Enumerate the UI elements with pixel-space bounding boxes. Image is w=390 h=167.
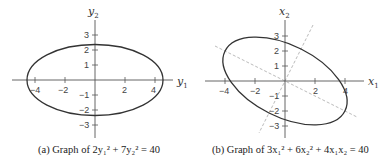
- x-tick-label: −4: [219, 86, 229, 96]
- caption-a-equation: 2y₁² + 7y₂² = 40: [93, 144, 160, 155]
- y-tick-label: 1: [274, 61, 279, 71]
- caption-a-prefix: (a) Graph of: [38, 144, 93, 155]
- major-principal-axis: [215, 46, 358, 118]
- x-tick-label: 2: [313, 86, 318, 96]
- y-tick-label: −2: [79, 105, 89, 115]
- y-tick-label: −3: [79, 120, 89, 130]
- caption-b-equation: 3x₁² + 6x₂² + 4x₁x₂ = 40: [267, 144, 369, 155]
- y-axis-label: y2: [87, 5, 99, 20]
- y-tick-label: 2: [84, 45, 89, 55]
- caption-a: (a) Graph of 2y₁² + 7y₂² = 40: [38, 144, 160, 155]
- minor-principal-axis: [259, 25, 313, 133]
- figure-canvas: −4 −2 2 4 3 2 1 −1 −2 −3 y1 y2: [0, 0, 390, 167]
- x-tick-label: 4: [151, 85, 156, 95]
- y-tick-label: 2: [274, 46, 279, 56]
- x-tick-label: −2: [58, 85, 68, 95]
- y-tick-label: −1: [269, 91, 279, 101]
- caption-b: (b) Graph of 3x₁² + 6x₂² + 4x₁x₂ = 40: [212, 144, 369, 155]
- y-tick-label: 1: [84, 60, 89, 70]
- y-tick-label: −3: [269, 121, 279, 131]
- x-axis-label: x1: [368, 75, 379, 90]
- caption-b-prefix: (b) Graph of: [212, 144, 267, 155]
- panel-b: −4 −2 2 4 3 2 1 −1 −2 −3 x1 x2: [205, 5, 379, 143]
- x-axis-label: y1: [176, 75, 188, 90]
- x-tick-label: 2: [122, 85, 127, 95]
- y-tick-label: 3: [84, 30, 89, 40]
- y-axis-label: x2: [279, 5, 290, 20]
- x-tick-label: −2: [250, 86, 260, 96]
- panel-a: −4 −2 2 4 3 2 1 −1 −2 −3 y1 y2: [12, 5, 188, 138]
- y-tick-label: −1: [79, 90, 89, 100]
